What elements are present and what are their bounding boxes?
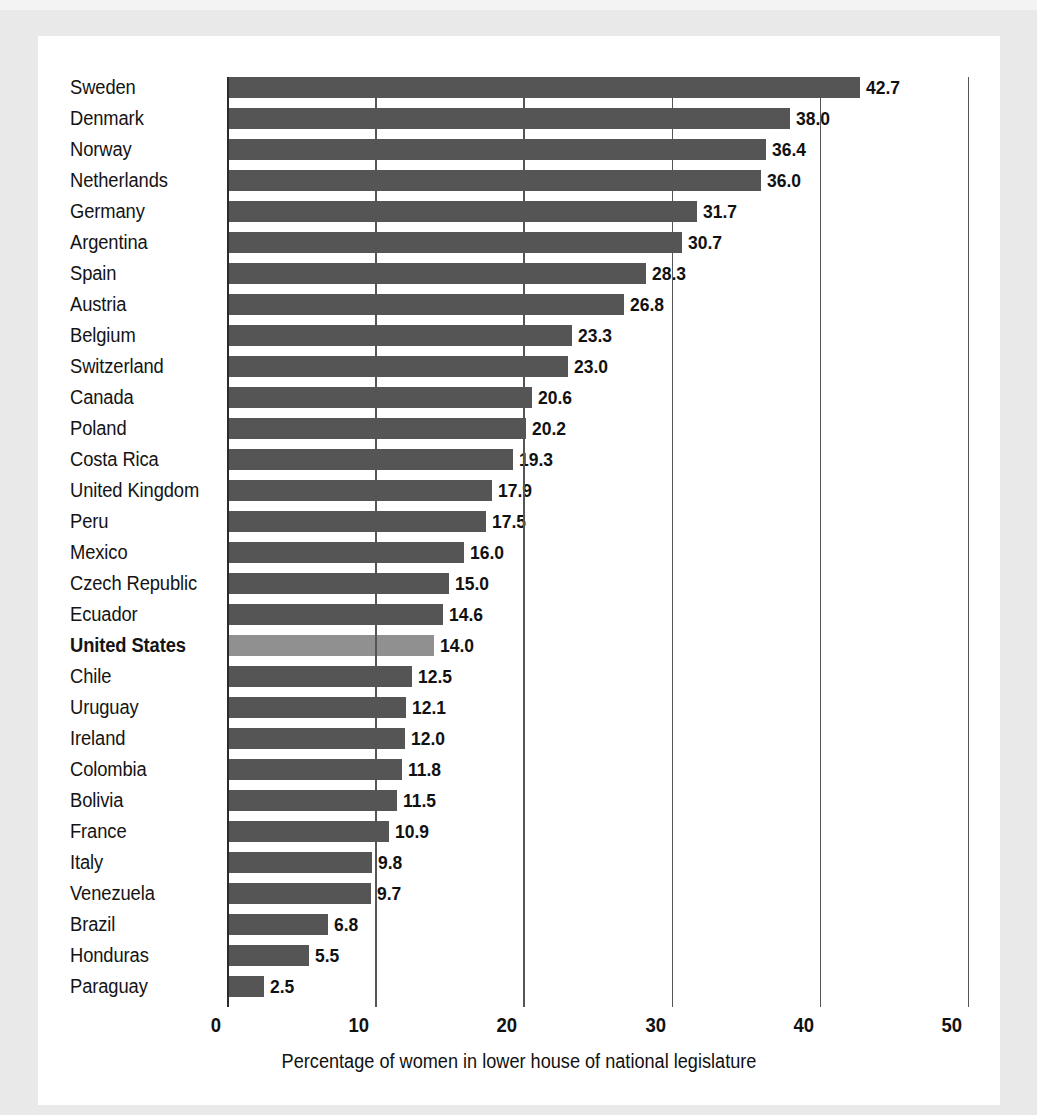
bar-value-label: 6.8 [334,909,358,940]
bar-value-label: 9.8 [378,847,402,878]
category-label: Spain [70,258,116,289]
bar-row: Spain28.3 [38,258,1000,289]
category-label: Netherlands [70,165,168,196]
bar-row: United Kingdom17.9 [38,475,1000,506]
category-label: Mexico [70,537,128,568]
bar [227,449,513,470]
bar-row: Germany31.7 [38,196,1000,227]
bar [227,294,624,315]
bar [227,914,328,935]
bar-row: Uruguay12.1 [38,692,1000,723]
bar-row: Switzerland23.0 [38,351,1000,382]
bar [227,232,682,253]
bar-value-label: 15.0 [455,568,489,599]
category-label: Bolivia [70,785,123,816]
bar [227,325,572,346]
bar [227,852,372,873]
bar-value-label: 12.5 [418,661,452,692]
bar [227,77,860,98]
bar-value-label: 23.3 [578,320,612,351]
bar-row: Czech Republic15.0 [38,568,1000,599]
bar [227,883,371,904]
bar [227,604,443,625]
x-tick-label: 20 [470,1013,518,1037]
category-label: Uruguay [70,692,139,723]
bar-value-label: 12.1 [412,692,446,723]
bar [227,573,449,594]
bar-value-label: 10.9 [395,816,429,847]
bar [227,511,486,532]
bar [227,728,405,749]
bar-value-label: 38.0 [796,103,830,134]
bar [227,821,389,842]
bar-row: United States14.0 [38,630,1000,661]
category-label: Honduras [70,940,149,971]
category-label: Switzerland [70,351,164,382]
bar-value-label: 14.6 [449,599,483,630]
bar [227,790,397,811]
bar-value-label: 36.4 [772,134,806,165]
category-label: Paraguay [70,971,148,1002]
bar [227,418,526,439]
bar [227,139,766,160]
chart-card: Sweden42.7Denmark38.0Norway36.4Netherlan… [38,36,1000,1105]
bar-value-label: 5.5 [315,940,339,971]
bar-value-label: 42.7 [866,72,900,103]
bar-row: Sweden42.7 [38,72,1000,103]
category-label: Italy [70,847,103,878]
bar-value-label: 16.0 [470,537,504,568]
bar-row: Belgium23.3 [38,320,1000,351]
x-gridline [523,77,524,1007]
bar [227,976,264,997]
category-label: Chile [70,661,111,692]
category-label: Poland [70,413,127,444]
category-label: Denmark [70,103,144,134]
bar-row: Italy9.8 [38,847,1000,878]
bar-value-label: 30.7 [688,227,722,258]
bar [227,697,406,718]
bar-value-label: 28.3 [652,258,686,289]
x-gridline [968,77,969,1007]
category-label: Belgium [70,320,136,351]
bar [227,666,412,687]
x-gridline [672,77,673,1007]
category-label: Ireland [70,723,125,754]
category-label: Austria [70,289,126,320]
x-tick-label: 30 [618,1013,666,1037]
category-label: France [70,816,126,847]
bar-value-label: 20.6 [538,382,572,413]
bar-row: Honduras5.5 [38,940,1000,971]
category-label: Argentina [70,227,148,258]
bar-value-label: 2.5 [270,971,294,1002]
category-label: Czech Republic [70,568,197,599]
bar-value-label: 14.0 [440,630,474,661]
bar-row: Ireland12.0 [38,723,1000,754]
bar-row: Brazil6.8 [38,909,1000,940]
x-tick-label: 40 [766,1013,814,1037]
bar-row: Poland20.2 [38,413,1000,444]
bar [227,201,697,222]
category-label: Ecuador [70,599,138,630]
bar-chart-plot-area: Sweden42.7Denmark38.0Norway36.4Netherlan… [38,36,1000,1105]
category-label: Venezuela [70,878,155,909]
bar-value-label: 11.8 [408,754,441,785]
x-tick-label: 50 [914,1013,962,1037]
scan-edge-artifact [0,0,1037,10]
bar-row: Canada20.6 [38,382,1000,413]
category-label: United Kingdom [70,475,199,506]
bar-row: Ecuador14.6 [38,599,1000,630]
bar-row: Venezuela9.7 [38,878,1000,909]
bar-value-label: 11.5 [403,785,436,816]
bar-value-label: 9.7 [377,878,401,909]
bar [227,108,790,129]
category-label: Brazil [70,909,115,940]
bar-row: Paraguay2.5 [38,971,1000,1002]
bar-value-label: 23.0 [574,351,608,382]
x-gridline [820,77,821,1007]
bar-row: Netherlands36.0 [38,165,1000,196]
bar [227,480,492,501]
bar-value-label: 17.5 [492,506,526,537]
bar [227,635,434,656]
x-gridline [227,77,229,1007]
bar-value-label: 20.2 [532,413,566,444]
